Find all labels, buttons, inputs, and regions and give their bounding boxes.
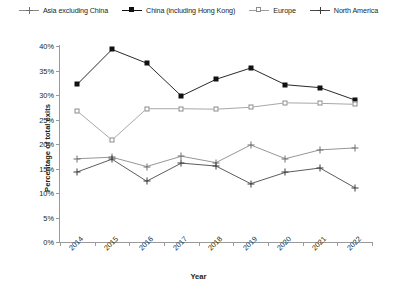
plus-dark-icon — [213, 163, 220, 170]
x-axis-tick — [233, 242, 234, 246]
filled-square-icon — [318, 85, 323, 90]
plus-dark-icon — [351, 184, 358, 191]
plus-dark-icon — [282, 169, 289, 176]
legend-label: Asia excluding China — [43, 6, 108, 15]
plot-area: 0%5%10%15%20%25%30%35%40%201420152016201… — [60, 46, 372, 242]
plus-icon — [247, 141, 254, 148]
y-axis-tick-label: 40% — [39, 42, 54, 51]
plus-dark-icon — [109, 156, 116, 163]
plus-icon — [74, 155, 81, 162]
y-axis-tick — [56, 71, 60, 72]
plus-dark-icon — [178, 160, 185, 167]
x-axis-tick — [95, 242, 96, 246]
x-axis-tick — [303, 242, 304, 246]
x-axis-tick — [199, 242, 200, 246]
legend-label: China (including Hong Kong) — [146, 6, 235, 15]
filled-square-icon — [214, 77, 219, 82]
series-lines — [60, 46, 372, 242]
open-square-icon — [179, 106, 184, 111]
line-chart: Asia excluding ChinaChina (including Hon… — [0, 0, 397, 296]
plus-dark-icon — [247, 180, 254, 187]
filled-square-icon — [248, 66, 253, 71]
plus-dark-icon — [317, 7, 324, 14]
y-axis-tick-label: 10% — [39, 189, 54, 198]
legend-item[interactable]: North America — [310, 6, 378, 15]
y-axis-tick-label: 20% — [39, 140, 54, 149]
y-axis-tick — [56, 120, 60, 121]
y-axis-tick — [56, 218, 60, 219]
legend-swatch — [122, 6, 142, 15]
plus-icon — [26, 7, 33, 14]
x-axis-tick — [372, 242, 373, 246]
y-axis-tick — [56, 46, 60, 47]
y-axis-tick — [56, 95, 60, 96]
open-square-icon — [318, 101, 323, 106]
y-axis-tick-label: 0% — [43, 238, 54, 247]
y-axis-tick-label: 35% — [39, 66, 54, 75]
series-line — [77, 49, 354, 99]
legend-swatch — [249, 6, 269, 15]
legend-item[interactable]: Europe — [249, 6, 296, 15]
y-axis-tick-label: 25% — [39, 115, 54, 124]
y-axis-tick — [56, 169, 60, 170]
plus-icon — [351, 144, 358, 151]
x-axis-title: Year — [0, 272, 397, 281]
x-axis-tick — [60, 242, 61, 246]
plus-icon — [143, 163, 150, 170]
filled-square-icon — [110, 47, 115, 52]
legend-swatch — [310, 6, 330, 15]
filled-square-icon — [179, 93, 184, 98]
y-axis-tick — [56, 193, 60, 194]
open-square-icon — [256, 7, 261, 12]
chart-legend: Asia excluding ChinaChina (including Hon… — [0, 6, 397, 15]
open-square-icon — [248, 105, 253, 110]
legend-label: Europe — [273, 6, 296, 15]
plus-dark-icon — [143, 178, 150, 185]
filled-square-icon — [283, 82, 288, 87]
filled-square-icon — [144, 61, 149, 66]
filled-square-icon — [75, 82, 80, 87]
open-square-icon — [144, 106, 149, 111]
legend-item[interactable]: Asia excluding China — [19, 6, 108, 15]
y-axis-tick-label: 30% — [39, 91, 54, 100]
x-axis-tick — [337, 242, 338, 246]
legend-label: North America — [334, 6, 378, 15]
y-axis-tick — [56, 144, 60, 145]
y-axis-tick-label: 15% — [39, 164, 54, 173]
plus-dark-icon — [317, 165, 324, 172]
open-square-icon — [352, 102, 357, 107]
legend-item[interactable]: China (including Hong Kong) — [122, 6, 235, 15]
open-square-icon — [214, 107, 219, 112]
plus-icon — [317, 146, 324, 153]
plus-icon — [282, 155, 289, 162]
y-axis-tick-label: 5% — [43, 213, 54, 222]
plus-dark-icon — [74, 168, 81, 175]
x-axis-tick — [268, 242, 269, 246]
open-square-icon — [75, 109, 80, 114]
open-square-icon — [283, 100, 288, 105]
open-square-icon — [110, 138, 115, 143]
x-axis-tick — [129, 242, 130, 246]
legend-swatch — [19, 6, 39, 15]
x-axis-tick — [164, 242, 165, 246]
filled-square-icon — [129, 7, 134, 12]
